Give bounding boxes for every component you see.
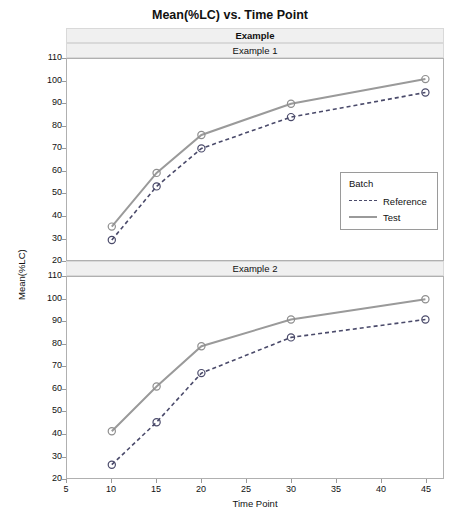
legend-swatch-reference bbox=[349, 197, 377, 205]
series-test-line-2 bbox=[112, 299, 426, 431]
ytickmark-2-70 bbox=[62, 366, 66, 367]
ytickmark-2-50 bbox=[62, 411, 66, 412]
series-reference-markers-2 bbox=[108, 316, 429, 468]
ytickmark-2-80 bbox=[62, 344, 66, 345]
xtickmark-40 bbox=[381, 479, 382, 483]
ytickmark-2-60 bbox=[62, 389, 66, 390]
ytickmark-1-100 bbox=[62, 81, 66, 82]
xtick-30: 30 bbox=[281, 484, 301, 494]
legend-title: Batch bbox=[349, 178, 373, 189]
ytick-1-40: 40 bbox=[28, 210, 62, 220]
legend-label-test: Test bbox=[383, 212, 400, 223]
ytickmark-1-70 bbox=[62, 148, 66, 149]
xtick-35: 35 bbox=[326, 484, 346, 494]
strip-header-panel-2: Example 2 bbox=[66, 261, 444, 276]
ytickmark-1-110 bbox=[62, 58, 66, 59]
legend: Batch Reference Test bbox=[340, 172, 438, 230]
legend-item-reference[interactable]: Reference bbox=[349, 195, 427, 207]
xtick-15: 15 bbox=[146, 484, 166, 494]
ytickmark-1-60 bbox=[62, 171, 66, 172]
panel-example-1 bbox=[66, 58, 444, 261]
ytickmark-1-90 bbox=[62, 103, 66, 104]
ytickmark-2-30 bbox=[62, 457, 66, 458]
ytick-2-20: 20 bbox=[28, 473, 62, 483]
xtick-10: 10 bbox=[101, 484, 121, 494]
ytick-1-80: 80 bbox=[28, 120, 62, 130]
xtickmark-15 bbox=[156, 479, 157, 483]
xtickmark-20 bbox=[201, 479, 202, 483]
ytickmark-1-30 bbox=[62, 239, 66, 240]
ytick-2-70: 70 bbox=[28, 360, 62, 370]
xtickmark-45 bbox=[426, 479, 427, 483]
ytickmark-1-80 bbox=[62, 126, 66, 127]
strip-header-panel-1: Example 1 bbox=[66, 43, 444, 58]
xtickmark-5 bbox=[66, 479, 67, 483]
ytick-1-70: 70 bbox=[28, 142, 62, 152]
ytick-1-30: 30 bbox=[28, 233, 62, 243]
y-axis-title: Mean(%LC) bbox=[16, 249, 27, 300]
xtickmark-35 bbox=[336, 479, 337, 483]
chart-title: Mean(%LC) vs. Time Point bbox=[0, 8, 460, 22]
series-reference-line-2 bbox=[112, 320, 426, 465]
ytick-1-60: 60 bbox=[28, 165, 62, 175]
strip-header-main: Example bbox=[66, 28, 444, 43]
panel-example-2 bbox=[66, 276, 444, 479]
x-axis-title: Time Point bbox=[185, 498, 325, 509]
ytick-1-20: 20 bbox=[28, 255, 62, 265]
ytick-2-60: 60 bbox=[28, 383, 62, 393]
ytick-1-50: 50 bbox=[28, 187, 62, 197]
xtick-25: 25 bbox=[236, 484, 256, 494]
ytickmark-2-90 bbox=[62, 321, 66, 322]
ytick-1-90: 90 bbox=[28, 97, 62, 107]
xtickmark-10 bbox=[111, 479, 112, 483]
series-test-markers-2 bbox=[108, 296, 429, 435]
xtick-5: 5 bbox=[56, 484, 76, 494]
xtickmark-25 bbox=[246, 479, 247, 483]
legend-label-reference: Reference bbox=[383, 196, 427, 207]
panel-2-series-svg bbox=[67, 277, 443, 478]
xtick-45: 45 bbox=[416, 484, 436, 494]
ytick-2-110: 110 bbox=[28, 270, 62, 280]
ytickmark-2-110 bbox=[62, 276, 66, 277]
ytickmark-2-100 bbox=[62, 299, 66, 300]
legend-item-test[interactable]: Test bbox=[349, 211, 400, 223]
ytickmark-1-50 bbox=[62, 193, 66, 194]
ytick-2-50: 50 bbox=[28, 405, 62, 415]
ytick-2-40: 40 bbox=[28, 428, 62, 438]
legend-swatch-test bbox=[349, 213, 377, 221]
ytick-2-100: 100 bbox=[28, 293, 62, 303]
ytick-2-80: 80 bbox=[28, 338, 62, 348]
ytick-2-30: 30 bbox=[28, 451, 62, 461]
ytick-1-110: 110 bbox=[28, 52, 62, 62]
ytickmark-2-40 bbox=[62, 434, 66, 435]
ytick-2-90: 90 bbox=[28, 315, 62, 325]
xtick-20: 20 bbox=[191, 484, 211, 494]
xtick-40: 40 bbox=[371, 484, 391, 494]
chart-root: Mean(%LC) vs. Time Point Example Example… bbox=[0, 0, 460, 523]
xtickmark-30 bbox=[291, 479, 292, 483]
ytickmark-1-40 bbox=[62, 216, 66, 217]
ytick-1-100: 100 bbox=[28, 75, 62, 85]
